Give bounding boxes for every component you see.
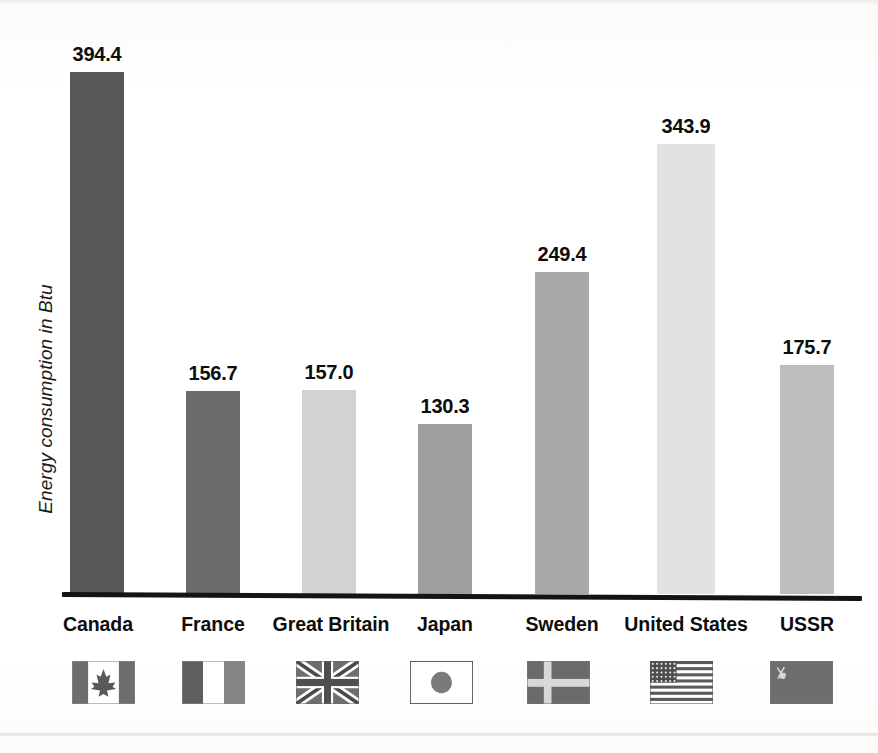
bar-fill xyxy=(657,144,715,594)
bar-fill xyxy=(418,424,472,594)
flag-france-icon xyxy=(182,661,245,704)
y-axis-label: Energy consumption in Btu xyxy=(35,249,57,549)
bar-value-label: 156.7 xyxy=(188,362,237,385)
flag-sweden-icon xyxy=(527,661,590,704)
bar-chart-plot-area: Energy consumption in Btu 394.4156.7157.… xyxy=(0,0,878,753)
category-label-canada: Canada xyxy=(48,613,148,636)
flag-great-britain-icon xyxy=(296,661,359,704)
category-label-sweden: Sweden xyxy=(512,613,612,636)
flag-canada-icon xyxy=(72,661,135,704)
category-label-japan: Japan xyxy=(395,613,495,636)
bar-value-label: 157.0 xyxy=(304,361,353,384)
bar-sweden xyxy=(535,272,589,594)
bar-fill xyxy=(302,390,356,594)
category-label-ussr: USSR xyxy=(757,613,857,636)
bar-value-label: 130.3 xyxy=(420,395,469,418)
bar-fill xyxy=(535,272,589,594)
bar-value-label: 175.7 xyxy=(782,336,831,359)
category-label-france: France xyxy=(163,613,263,636)
bar-value-label: 394.4 xyxy=(72,43,121,66)
category-label-united-states: United States xyxy=(616,613,756,636)
bar-value-label: 343.9 xyxy=(661,115,710,138)
category-label-great-britain: Great Britain xyxy=(261,613,401,636)
flag-japan-icon xyxy=(410,661,473,704)
bar-fill xyxy=(780,365,834,594)
bar-france xyxy=(186,391,240,594)
x-axis-baseline xyxy=(62,592,862,601)
flag-ussr-icon xyxy=(770,661,833,704)
bar-fill xyxy=(70,72,124,594)
bar-canada xyxy=(70,72,124,594)
bar-great-britain xyxy=(302,390,356,594)
bar-value-label: 249.4 xyxy=(537,243,586,266)
flag-united-states-icon xyxy=(650,661,713,704)
bar-united-states xyxy=(657,144,715,594)
chart-page: Energy consumption in Btu 394.4156.7157.… xyxy=(0,0,878,753)
bar-japan xyxy=(418,424,472,594)
bar-ussr xyxy=(780,365,834,594)
bar-fill xyxy=(186,391,240,594)
